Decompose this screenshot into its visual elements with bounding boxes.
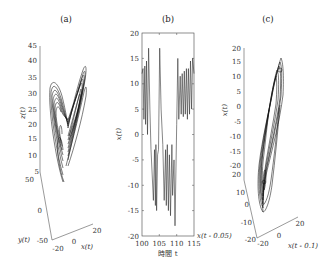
svg-text:-5: -5 (132, 156, 139, 164)
svg-text:105: 105 (153, 240, 166, 248)
panel-b-x-ticks: 100 105 110 115 (135, 240, 200, 248)
panel-a-x-ticks: -20 0 20 (52, 227, 101, 253)
panel-a-y-axis (40, 172, 52, 240)
svg-text:10: 10 (232, 73, 241, 81)
panel-a-z-ticks: 45 40 35 30 25 20 15 10 5 (28, 42, 39, 176)
svg-text:-15: -15 (128, 207, 139, 215)
svg-text:5: 5 (35, 168, 39, 176)
panel-b-y-ticks: 20 15 10 5 0 -5 -10 -15 -20 (128, 30, 139, 241)
panel-c-xlabel: x(t - 0.1) (288, 242, 318, 250)
svg-text:-20: -20 (230, 162, 241, 170)
svg-text:0: 0 (72, 238, 76, 246)
panel-b-series-line (142, 48, 194, 226)
panel-a-title: (a) (60, 14, 72, 24)
svg-text:5: 5 (237, 88, 241, 96)
panel-a: (a) 45 40 35 30 25 20 15 10 5 50 0 -50 -… (17, 14, 102, 253)
panel-a-attractor (50, 66, 87, 182)
svg-text:0: 0 (277, 232, 281, 240)
panel-a-y-ticks: 50 0 -50 (25, 176, 48, 245)
svg-text:40: 40 (28, 57, 37, 65)
svg-text:35: 35 (28, 74, 37, 82)
svg-text:15: 15 (130, 55, 139, 63)
svg-text:15: 15 (28, 135, 37, 143)
panel-b-tick-marks (142, 33, 194, 236)
svg-text:-20: -20 (52, 245, 63, 253)
svg-text:115: 115 (187, 240, 200, 248)
svg-text:25: 25 (28, 106, 37, 114)
svg-text:-10: -10 (128, 182, 139, 190)
svg-text:50: 50 (25, 176, 34, 184)
panel-c-ylabel: x(t - 0.05) (197, 232, 232, 240)
svg-text:0: 0 (237, 103, 241, 111)
svg-text:0: 0 (135, 131, 139, 139)
svg-text:0: 0 (38, 207, 42, 215)
svg-text:20: 20 (93, 227, 102, 235)
svg-text:110: 110 (170, 240, 183, 248)
panel-a-xlabel: x(t) (81, 243, 93, 251)
panel-c-y-axis (244, 180, 257, 238)
panel-c-z-ticks: 20 15 10 5 0 -5 -10 -15 -20 (230, 45, 241, 170)
panel-a-zlabel: z(t) (19, 107, 27, 120)
svg-text:100: 100 (135, 240, 148, 248)
svg-text:10: 10 (28, 152, 37, 160)
figure: (a) 45 40 35 30 25 20 15 10 5 50 0 -50 -… (0, 0, 330, 270)
svg-text:-20: -20 (245, 236, 256, 244)
svg-text:-5: -5 (234, 118, 241, 126)
panel-c: (c) 20 15 10 5 0 -5 -10 -15 -20 20 10 0 … (221, 14, 318, 250)
svg-text:-20: -20 (257, 240, 268, 248)
svg-text:20: 20 (28, 121, 37, 129)
panel-c-zlabel: x(t) (221, 104, 229, 116)
panel-b-title: (b) (162, 14, 174, 24)
panel-c-y-ticks: 20 10 0 -10 -20 (232, 171, 256, 244)
svg-text:-10: -10 (241, 219, 252, 227)
panel-a-ylabel: y(t) (17, 236, 30, 244)
svg-text:20: 20 (232, 45, 241, 53)
svg-text:20: 20 (296, 220, 305, 228)
svg-text:10: 10 (236, 189, 245, 197)
svg-text:-50: -50 (37, 237, 48, 245)
svg-text:20: 20 (232, 171, 241, 179)
svg-text:30: 30 (28, 90, 37, 98)
panel-b-axes-box (142, 33, 194, 236)
svg-text:20: 20 (130, 30, 139, 38)
svg-text:-10: -10 (230, 133, 241, 141)
panel-c-title: (c) (262, 14, 273, 24)
svg-text:-15: -15 (230, 148, 241, 156)
panel-c-attractor (258, 58, 283, 212)
panel-b-ylabel: x(t) (115, 128, 123, 140)
panel-b: (b) 20 15 10 5 0 -5 -10 -15 -20 100 (115, 14, 232, 258)
svg-text:5: 5 (135, 106, 139, 114)
panel-b-xlabel: 時間 t (158, 250, 177, 258)
svg-text:0: 0 (245, 201, 249, 209)
svg-text:10: 10 (130, 80, 139, 88)
svg-text:15: 15 (232, 58, 241, 66)
svg-text:45: 45 (28, 42, 37, 50)
